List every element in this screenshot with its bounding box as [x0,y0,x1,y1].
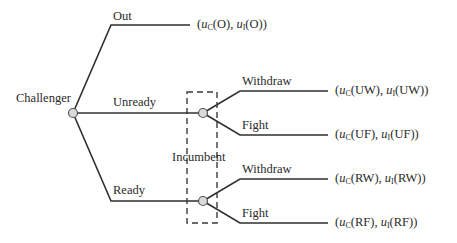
action-unready-label: Unready [113,95,156,110]
incumbent-node-unready [199,109,208,118]
edge-ready-withdraw [203,179,328,201]
action-out-label: Out [113,9,132,24]
payoff-unready-withdraw: (uC(UW), uI(UW)) [335,83,428,98]
action-fight-ready-label: Fight [242,206,268,221]
action-fight-unready-label: Fight [242,118,268,133]
edge-unready-withdraw [203,91,328,113]
action-withdraw-unready-label: Withdraw [242,74,291,89]
incumbent-node-ready [199,197,208,206]
challenger-label: Challenger [16,91,71,106]
challenger-node [69,109,78,118]
payoff-unready-fight: (uC(UF), uI(UF)) [335,127,419,142]
game-tree-canvas [0,0,457,243]
action-withdraw-ready-label: Withdraw [242,162,291,177]
payoff-ready-withdraw: (uC(RW), uI(RW)) [335,171,426,186]
payoff-out: (uC(O), uI(O)) [197,17,267,32]
payoff-ready-fight: (uC(RF), uI(RF)) [335,215,417,230]
incumbent-label: Incumbent [172,150,225,165]
action-ready-label: Ready [113,183,145,198]
